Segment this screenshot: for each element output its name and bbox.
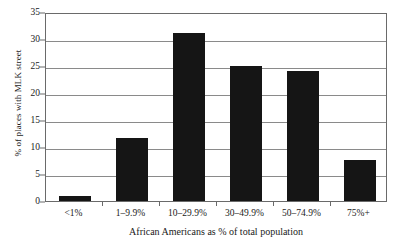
x-axis-tick-label: 10–29.9%: [168, 208, 207, 219]
y-axis-tick-label: 30: [31, 35, 41, 45]
y-axis-tick-label: 15: [31, 116, 41, 126]
bar: [116, 138, 148, 201]
x-axis-tick-label: <1%: [64, 208, 82, 219]
x-axis-tick-mark: [330, 202, 331, 206]
x-axis-tick-labels: <1%1–9.9%10–29.9%30–49.9%50–74.9%75%+: [45, 208, 387, 222]
bar: [173, 33, 205, 201]
y-axis-tick-labels: 05101520253035: [14, 0, 40, 247]
x-axis-tick-mark: [159, 202, 160, 206]
y-axis-tick-label: 20: [31, 89, 41, 99]
bar: [344, 160, 376, 201]
bar: [59, 196, 91, 201]
x-axis-tick-label: 50–74.9%: [282, 208, 321, 219]
y-axis-tick-label: 10: [31, 143, 41, 153]
x-axis-tick-label: 30–49.9%: [225, 208, 264, 219]
x-axis-tick-label: 1–9.9%: [116, 208, 145, 219]
x-axis-tick-mark: [273, 202, 274, 206]
bar-chart-figure: % of places with MLK street 051015202530…: [0, 0, 401, 247]
x-axis-tick-mark: [102, 202, 103, 206]
bar: [230, 66, 262, 201]
x-axis-title: African Americans as % of total populati…: [45, 226, 387, 237]
x-axis-tick-label: 75%+: [347, 208, 370, 219]
bar: [287, 71, 319, 201]
x-axis-tick-mark: [216, 202, 217, 206]
y-axis-tick-label: 25: [31, 62, 41, 72]
plot-area: [45, 13, 387, 202]
y-axis-tick-label: 35: [31, 8, 41, 18]
bar-series: [46, 14, 386, 201]
